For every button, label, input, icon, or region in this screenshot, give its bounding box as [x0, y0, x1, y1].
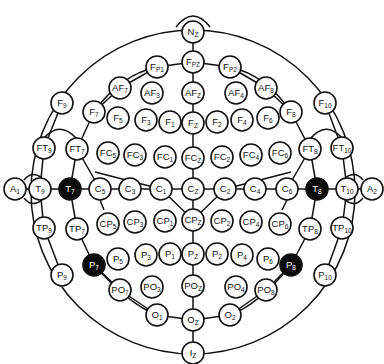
electrode-cp3: CP3 — [124, 211, 146, 233]
electrode-ft10: FT10 — [331, 137, 353, 159]
electrode-cp1: CP1 — [154, 210, 176, 232]
electrode-fc5: FC5 — [97, 142, 119, 164]
electrode-fc6: FC6 — [269, 142, 291, 164]
electrode-f5: F5 — [107, 107, 129, 129]
electrode-t10: T10 — [336, 178, 358, 200]
eeg-electrode-diagram: NZFPZFP1FP2AF7AF3AFZAF4AF8F9F7F5F3F1FZF2… — [0, 0, 384, 364]
electrode-f6: F6 — [257, 107, 279, 129]
electrode-f3: F3 — [135, 109, 157, 131]
electrode-tp7: TP7 — [66, 218, 88, 240]
electrode-f2: F2 — [206, 111, 228, 133]
electrode-p7: P7 — [83, 254, 105, 276]
electrode-f10: F10 — [314, 92, 336, 114]
electrode-cz: CZ — [182, 178, 204, 200]
electrode-cp5: CP5 — [97, 213, 119, 235]
electrode-cp2: CP2 — [211, 210, 233, 232]
electrode-p8: P8 — [280, 254, 302, 276]
electrode-fp2: FP2 — [219, 56, 241, 78]
electrode-af7: AF7 — [109, 77, 131, 99]
electrode-map: NZFPZFP1FP2AF7AF3AFZAF4AF8F9F7F5F3F1FZF2… — [0, 0, 384, 364]
electrode-c5: C5 — [89, 178, 111, 200]
electrode-fz: FZ — [182, 112, 204, 134]
electrode-af8: AF8 — [255, 77, 277, 99]
electrode-a1: A1 — [4, 178, 26, 200]
electrode-p3: P3 — [135, 244, 157, 266]
electrode-c4: C4 — [244, 178, 266, 200]
electrode-oz: OZ — [182, 309, 204, 331]
electrode-tp8: TP8 — [299, 218, 321, 240]
electrode-tp10: TP10 — [331, 217, 353, 239]
electrode-p10: P10 — [314, 264, 336, 286]
electrode-afz: AFZ — [182, 82, 204, 104]
electrode-c2: C2 — [214, 178, 236, 200]
electrode-fc2: FC2 — [211, 146, 233, 168]
electrode-pz: PZ — [182, 243, 204, 265]
electrode-af3: AF3 — [141, 82, 163, 104]
electrode-nz: NZ — [182, 21, 204, 43]
electrode-c1: C1 — [150, 178, 172, 200]
electrode-p5: P5 — [107, 248, 129, 270]
electrode-po3: PO3 — [141, 276, 163, 298]
electrode-a2: A2 — [361, 178, 383, 200]
electrode-f7: F7 — [83, 101, 105, 123]
electrode-fp1: FP1 — [146, 56, 168, 78]
electrode-p2: P2 — [206, 243, 228, 265]
electrode-iz: IZ — [182, 342, 204, 364]
electrode-ft9: FT9 — [33, 137, 55, 159]
diag-stub-left — [100, 200, 104, 210]
electrode-t8: T8 — [306, 178, 328, 200]
electrode-p9: P9 — [51, 264, 73, 286]
electrode-c6: C6 — [276, 178, 298, 200]
electrode-cpz: CPZ — [182, 209, 204, 231]
electrode-po4: PO4 — [225, 276, 247, 298]
electrode-p6: P6 — [257, 248, 279, 270]
electrode-f9: F9 — [51, 92, 73, 114]
electrode-af4: AF4 — [225, 82, 247, 104]
electrode-fpz: FPZ — [182, 51, 204, 73]
diag-stub-right — [282, 200, 287, 210]
electrode-o2: O2 — [219, 304, 241, 326]
electrode-fc4: FC4 — [240, 144, 262, 166]
electrode-nodes: NZFPZFP1FP2AF7AF3AFZAF4AF8F9F7F5F3F1FZF2… — [4, 21, 383, 364]
electrode-fcz: FCZ — [182, 147, 204, 169]
electrode-f4: F4 — [231, 109, 253, 131]
electrode-cp6: CP6 — [269, 213, 291, 235]
electrode-o1: O1 — [146, 304, 168, 326]
electrode-cp4: CP4 — [240, 211, 262, 233]
electrode-ft8: FT8 — [299, 138, 321, 160]
electrode-fc3: FC3 — [124, 144, 146, 166]
electrode-f8: F8 — [280, 101, 302, 123]
electrode-c3: C3 — [119, 178, 141, 200]
electrode-p4: P4 — [231, 244, 253, 266]
electrode-fc1: FC1 — [154, 146, 176, 168]
electrode-f1: F1 — [159, 111, 181, 133]
electrode-p1: P1 — [159, 243, 181, 265]
electrode-po8: PO8 — [255, 279, 277, 301]
electrode-t9: T9 — [29, 178, 51, 200]
electrode-po7: PO7 — [109, 279, 131, 301]
electrode-poz: POZ — [182, 275, 204, 297]
electrode-tp9: TP9 — [33, 217, 55, 239]
electrode-t7: T7 — [59, 178, 81, 200]
electrode-ft7: FT7 — [66, 138, 88, 160]
